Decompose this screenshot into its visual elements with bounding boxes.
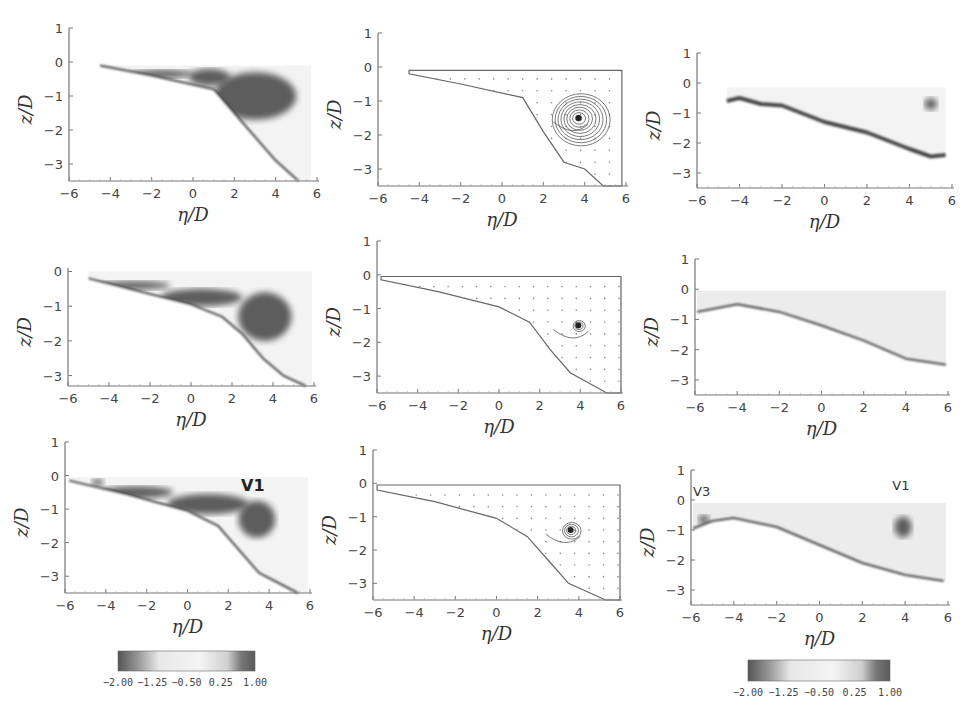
x-tick-label: −2 — [137, 598, 156, 613]
vector-dot — [415, 506, 417, 508]
vector-dot — [433, 345, 435, 347]
vector-dot — [421, 138, 423, 140]
vector-dot — [618, 380, 620, 382]
vector-dot — [430, 459, 432, 461]
vector-dot — [433, 262, 435, 264]
colorbar-right: −2.00−1.25−0.500.251.00 — [733, 660, 902, 698]
vector-dot — [603, 553, 605, 555]
vector-dot — [387, 576, 389, 578]
vector-dot — [609, 138, 611, 140]
vector-dot — [435, 66, 437, 68]
vector-dot — [406, 161, 408, 163]
vector-dot — [545, 541, 547, 543]
y-tick-label: −3 — [44, 157, 63, 172]
vector-dot — [392, 126, 394, 128]
vector-dot — [623, 126, 625, 128]
vector-dot — [406, 114, 408, 116]
vector-dot — [490, 321, 492, 323]
vector-dot — [464, 54, 466, 56]
vector-dot — [603, 541, 605, 543]
vector-dot — [487, 564, 489, 566]
vector-dot — [419, 380, 421, 382]
vector-dot — [617, 553, 619, 555]
vector-dot — [565, 78, 567, 80]
x-axis-label: η/D — [486, 209, 518, 230]
vector-dot — [462, 321, 464, 323]
vector-dot — [433, 321, 435, 323]
y-tick-label: −2 — [44, 123, 63, 138]
y-tick-label: −2 — [43, 334, 62, 349]
vector-dot — [405, 345, 407, 347]
vector-dot — [604, 286, 606, 288]
vector-dot — [490, 309, 492, 311]
vector-dot — [575, 369, 577, 371]
vector-dot — [415, 564, 417, 566]
x-tick-label: 2 — [539, 191, 547, 206]
vector-dot — [450, 54, 452, 56]
vector-dot — [588, 506, 590, 508]
vector-dot — [588, 576, 590, 578]
vortex-core — [575, 322, 581, 328]
y-axis-label: z/D — [11, 507, 32, 539]
vector-dot — [419, 262, 421, 264]
vector-dot — [504, 298, 506, 300]
vector-dot — [603, 459, 605, 461]
vector-dot — [603, 564, 605, 566]
x-tick-label: −6 — [59, 186, 78, 201]
colorbar-tick-label: −1.25 — [137, 677, 167, 688]
vortex-region — [160, 289, 242, 306]
x-tick-label: −4 — [410, 191, 429, 206]
vector-dot — [476, 309, 478, 311]
vector-dot — [588, 494, 590, 496]
vector-dot — [387, 553, 389, 555]
vector-dot — [405, 298, 407, 300]
flow-domain-fill — [69, 477, 308, 593]
flow-domain-fill — [727, 88, 946, 157]
vector-dot — [392, 161, 394, 163]
y-tick-label: −2 — [352, 335, 371, 350]
x-tick-label: 2 — [228, 391, 236, 406]
vector-dot — [575, 262, 577, 264]
vector-dot — [450, 161, 452, 163]
vector-dot — [430, 541, 432, 543]
x-tick-label: 2 — [860, 400, 868, 415]
y-tick-label: 0 — [359, 476, 367, 491]
vector-dot — [545, 564, 547, 566]
vector-dot — [533, 380, 535, 382]
vector-dot — [588, 529, 590, 531]
vector-dot — [421, 114, 423, 116]
vector-dot — [531, 564, 533, 566]
vector-dot — [560, 471, 562, 473]
vector-dot — [618, 298, 620, 300]
x-tick-label: 0 — [817, 400, 825, 415]
vector-dot — [516, 471, 518, 473]
vector-dot — [516, 588, 518, 590]
vector-dot — [390, 369, 392, 371]
vector-dot — [464, 173, 466, 175]
vector-dot — [609, 90, 611, 92]
x-tick-label: 0 — [189, 186, 197, 201]
vector-dot — [476, 369, 478, 371]
vector-dot — [507, 126, 509, 128]
vector-dot — [560, 576, 562, 578]
vector-dot — [623, 78, 625, 80]
vector-dot — [560, 506, 562, 508]
vector-dot — [390, 345, 392, 347]
vector-dot — [590, 298, 592, 300]
colorbar-gradient — [118, 651, 255, 671]
vector-dot — [487, 518, 489, 520]
vector-dot — [387, 588, 389, 590]
vector-dot — [522, 126, 524, 128]
vector-dot — [536, 102, 538, 104]
vector-dot — [545, 506, 547, 508]
vector-dot — [533, 357, 535, 359]
vector-dot — [415, 494, 417, 496]
vector-dot — [551, 114, 553, 116]
y-tick-label: 0 — [55, 55, 63, 70]
vector-dot — [433, 286, 435, 288]
vector-dot — [478, 54, 480, 56]
vector-dot — [421, 126, 423, 128]
vector-dot — [405, 369, 407, 371]
vector-dot — [462, 369, 464, 371]
vector-dot — [522, 102, 524, 104]
